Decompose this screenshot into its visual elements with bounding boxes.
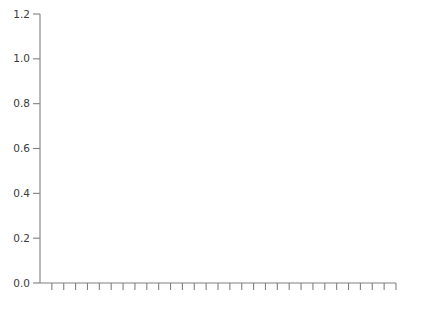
chart-container: 0.00.20.40.60.81.01.2: [0, 0, 432, 322]
y-tick-label: 0.0: [13, 277, 30, 289]
line-chart: 0.00.20.40.60.81.01.2: [0, 0, 432, 322]
y-tick-label: 0.8: [13, 97, 30, 109]
y-tick-label: 0.6: [13, 142, 30, 154]
y-tick-label: 0.4: [13, 187, 30, 199]
x-axis-ticks: [52, 283, 396, 290]
y-tick-label: 0.2: [13, 232, 30, 244]
y-axis-ticks: [33, 14, 40, 283]
y-tick-label: 1.2: [13, 8, 30, 20]
y-axis-tick-labels: 0.00.20.40.60.81.01.2: [13, 8, 30, 289]
y-tick-label: 1.0: [13, 52, 30, 64]
